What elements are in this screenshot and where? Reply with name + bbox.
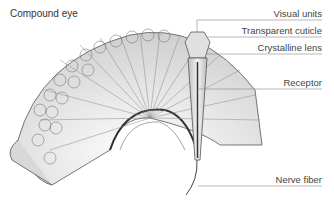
label-visual-units: Visual units bbox=[274, 8, 322, 19]
label-receptor: Receptor bbox=[283, 77, 322, 88]
label-transparent-cuticle: Transparent cuticle bbox=[242, 25, 322, 36]
label-nerve-fiber: Nerve fiber bbox=[276, 174, 322, 185]
label-crystalline-lens: Crystalline lens bbox=[258, 42, 322, 53]
dome-structure bbox=[10, 29, 262, 185]
